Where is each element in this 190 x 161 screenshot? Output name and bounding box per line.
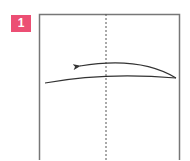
origami-fold-diagram bbox=[0, 0, 190, 160]
paper-square bbox=[40, 15, 180, 161]
paper-edge-curve bbox=[45, 76, 176, 83]
